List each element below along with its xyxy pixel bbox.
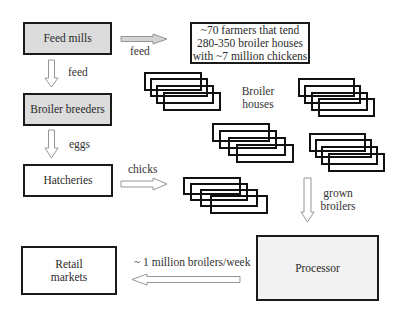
node-farmers: ~70 farmers that tend 280-350 broiler ho…	[190, 22, 310, 64]
broiler-house-stack-2	[299, 79, 374, 116]
broiler-house-stack-3	[213, 124, 293, 162]
node-feed-mills-label: Feed mills	[43, 32, 91, 45]
edge-label-grown-broilers: grown broilers	[318, 187, 358, 213]
node-hatcheries: Hatcheries	[23, 164, 113, 197]
label-broiler-houses: Broiler houses	[239, 85, 277, 111]
arrow-eggs-down	[45, 130, 58, 158]
farmers-line-2: 280-350 broiler houses	[197, 37, 303, 50]
arrow-feed-right	[121, 34, 167, 44]
farmers-line-3: with ~7 million chickens	[193, 50, 308, 63]
node-retail-markets: Retail markets	[21, 246, 117, 295]
broiler-house-stack-5	[184, 178, 267, 213]
arrow-grown-broilers-down	[301, 178, 314, 222]
grown-broilers-line-1: grown	[318, 187, 358, 200]
grown-broilers-line-2: broilers	[318, 200, 358, 213]
node-processor-label: Processor	[295, 262, 340, 275]
edge-label-to-retail: ~ 1 million broilers/week	[134, 256, 250, 269]
edge-label-feed-right: feed	[130, 45, 150, 58]
broiler-houses-line-1: Broiler	[239, 85, 277, 98]
node-broiler-breeders-label: Broiler breeders	[30, 103, 104, 116]
broiler-houses-line-2: houses	[239, 98, 277, 111]
node-hatcheries-label: Hatcheries	[43, 174, 92, 187]
retail-line-2: markets	[51, 271, 87, 284]
retail-line-1: Retail	[55, 258, 82, 271]
node-feed-mills: Feed mills	[23, 22, 112, 55]
edge-label-eggs: eggs	[69, 138, 90, 151]
arrow-to-retail-left	[132, 274, 240, 285]
broiler-house-stack-4	[310, 134, 384, 171]
broiler-house-stack-1	[145, 73, 220, 110]
farmers-line-1: ~70 farmers that tend	[201, 24, 300, 37]
node-broiler-breeders: Broiler breeders	[23, 93, 112, 126]
edge-label-chicks: chicks	[128, 163, 157, 176]
node-processor: Processor	[256, 235, 379, 301]
arrow-feed-down	[45, 60, 58, 87]
arrow-chicks-right	[121, 178, 167, 190]
edge-label-feed-down: feed	[68, 66, 88, 79]
